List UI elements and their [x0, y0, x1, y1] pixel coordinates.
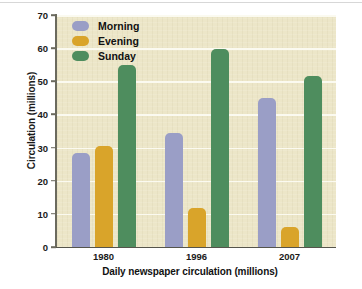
bar-morning-1996	[165, 133, 183, 247]
bar-evening-1980	[95, 146, 113, 247]
legend-swatch-icon	[72, 51, 89, 61]
y-tick-mark	[51, 213, 56, 215]
bar-sunday-2007	[304, 76, 322, 247]
y-tick-label: 40	[24, 109, 48, 120]
gridline	[57, 15, 336, 17]
y-tick-label: 30	[24, 142, 48, 153]
x-tick-label: 1980	[74, 251, 134, 262]
y-tick-mark	[51, 80, 56, 82]
legend-label: Sunday	[98, 50, 136, 62]
x-axis-title: Daily newspaper circulation (millions)	[40, 266, 340, 277]
y-tick-mark	[51, 14, 56, 16]
chart-legend: MorningEveningSunday	[72, 18, 192, 63]
bar-sunday-1996	[211, 49, 229, 247]
legend-item-morning: Morning	[72, 18, 192, 33]
x-tick-label: 2007	[260, 251, 320, 262]
y-tick-label: 10	[24, 208, 48, 219]
legend-item-evening: Evening	[72, 33, 192, 48]
gridline	[57, 114, 336, 116]
y-axis-ticklabels: 706050403020100	[24, 15, 48, 247]
bar-evening-2007	[281, 227, 299, 247]
gridline	[57, 81, 336, 83]
y-tick-label: 60	[24, 43, 48, 54]
y-tick-mark	[51, 47, 56, 49]
legend-item-sunday: Sunday	[72, 48, 192, 63]
y-tick-mark	[51, 246, 56, 248]
y-tick-mark	[51, 180, 56, 182]
y-tick-mark	[51, 147, 56, 149]
legend-swatch-icon	[72, 21, 89, 31]
bar-chart-figure: Circulation (millions) 706050403020100 M…	[0, 0, 362, 289]
y-tick-label: 0	[24, 242, 48, 253]
bar-evening-1996	[188, 208, 206, 247]
y-tick-label: 50	[24, 76, 48, 87]
bar-morning-1980	[72, 153, 90, 247]
legend-label: Evening	[98, 35, 139, 47]
legend-swatch-icon	[72, 36, 89, 46]
y-tick-label: 20	[24, 175, 48, 186]
y-tick-label: 70	[24, 10, 48, 21]
legend-label: Morning	[98, 20, 139, 32]
bar-morning-2007	[258, 98, 276, 247]
top-divider	[0, 2, 362, 3]
x-tick-label: 1996	[167, 251, 227, 262]
y-tick-mark	[51, 114, 56, 116]
bar-sunday-1980	[118, 65, 136, 247]
